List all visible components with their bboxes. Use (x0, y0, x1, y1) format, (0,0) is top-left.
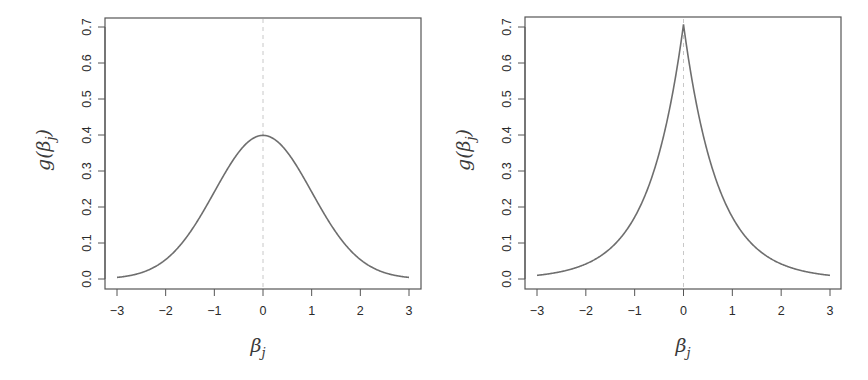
x-tick-label: 3 (406, 304, 413, 318)
y-tick-label: 0.3 (80, 162, 94, 179)
y-axis-title: g(βj) (452, 129, 478, 171)
x-tick-label: −2 (159, 304, 173, 318)
plot-frame (105, 18, 421, 289)
x-tick-label: −3 (530, 304, 544, 318)
y-tick-label: 0.7 (80, 18, 94, 35)
y-tick-label: 0.2 (80, 198, 94, 215)
x-tick-label: −3 (110, 304, 124, 318)
y-tick-label: 0.7 (500, 18, 514, 35)
x-axis-title: βj (674, 334, 690, 360)
y-tick-label: 0.6 (80, 54, 94, 71)
x-tick-label: 0 (260, 304, 267, 318)
x-tick-label: 2 (357, 304, 364, 318)
x-tick-label: 1 (729, 304, 736, 318)
x-axis: −3−2−10123 (530, 289, 834, 318)
y-tick-label: 0.0 (80, 270, 94, 287)
y-tick-label: 0.0 (500, 270, 514, 287)
y-tick-label: 0.5 (80, 90, 94, 107)
x-tick-label: −1 (628, 304, 642, 318)
x-tick-label: 2 (778, 304, 785, 318)
x-tick-label: 3 (827, 304, 834, 318)
y-tick-label: 0.4 (80, 126, 94, 143)
y-tick-label: 0.5 (500, 90, 514, 107)
x-tick-label: 1 (308, 304, 315, 318)
y-axis: 0.00.10.20.30.40.50.60.7 (80, 18, 105, 287)
y-tick-label: 0.1 (500, 234, 514, 251)
y-tick-label: 0.1 (80, 234, 94, 251)
y-axis: 0.00.10.20.30.40.50.60.7 (500, 18, 525, 287)
y-axis-title: g(βj) (32, 129, 58, 171)
plot-frame (525, 17, 841, 289)
gaussian-density-plot: 0.00.10.20.30.40.50.60.7 −3−2−10123 g(βj… (32, 18, 421, 360)
x-tick-label: −2 (579, 304, 593, 318)
y-tick-label: 0.3 (500, 162, 514, 179)
y-tick-label: 0.6 (500, 54, 514, 71)
x-tick-label: −1 (207, 304, 221, 318)
y-tick-label: 0.2 (500, 198, 514, 215)
x-axis: −3−2−10123 (110, 289, 413, 318)
x-tick-label: 0 (680, 304, 687, 318)
laplace-density-plot: 0.00.10.20.30.40.50.60.7 −3−2−10123 g(βj… (452, 17, 841, 360)
x-axis-title: βj (249, 334, 265, 360)
y-tick-label: 0.4 (500, 126, 514, 143)
figure: 0.00.10.20.30.40.50.60.7 −3−2−10123 g(βj… (0, 0, 868, 380)
